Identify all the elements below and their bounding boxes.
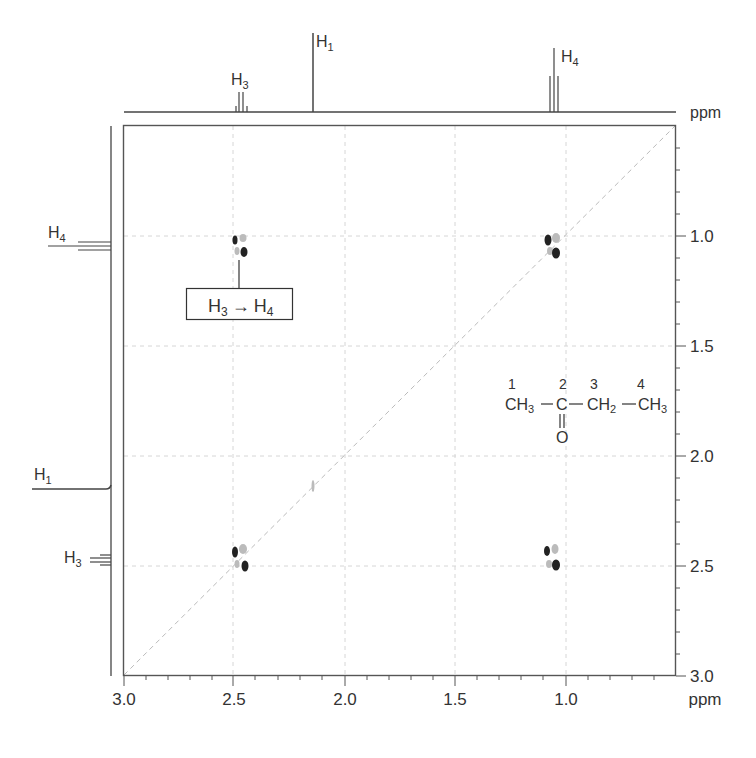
cross-peak-h1-diagonal [312,480,315,492]
cross-peak-h4-diagonal [545,233,561,259]
svg-text:1: 1 [508,376,516,392]
svg-text:2: 2 [559,376,567,392]
right-axis-ticks [676,148,686,676]
svg-text:2.0: 2.0 [333,690,357,709]
cosy-chart: H3→H4 H3 H1 H4 ppm H4 H1 H3 1.0 1.5 2.0 … [0,0,756,758]
molecule-structure: 1 2 3 4 CH3 C CH2 CH3 O [505,376,667,446]
top-label-h3: H3 [231,71,249,91]
top-label-h4: H4 [561,48,579,68]
svg-text:CH2: CH2 [587,396,616,415]
left-projection-spectrum [32,126,111,676]
top-ppm-label: ppm [690,104,721,121]
cross-peak-h4-h3 [544,544,560,571]
arrow-icon: → [232,296,250,316]
svg-text:4: 4 [637,376,645,392]
svg-text:ppm: ppm [688,690,721,709]
svg-text:O: O [556,429,568,446]
svg-text:H3→H4: H3→H4 [208,296,274,319]
svg-text:CH3: CH3 [505,396,534,415]
svg-text:2.5: 2.5 [222,690,246,709]
bottom-axis-labels: 3.0 2.5 2.0 1.5 1.0 ppm [112,690,721,709]
svg-text:2.5: 2.5 [690,557,714,576]
right-axis-labels: 1.0 1.5 2.0 2.5 3.0 [690,227,714,686]
cross-peak-h3-h4 [233,234,248,257]
svg-text:2.0: 2.0 [690,447,714,466]
svg-text:1.0: 1.0 [690,227,714,246]
svg-text:1.5: 1.5 [690,337,714,356]
cross-peak-h3-diagonal [232,544,249,572]
top-projection-spectrum [124,33,676,112]
svg-text:3: 3 [590,376,598,392]
annotation-h3: H [208,296,221,316]
left-label-h4: H4 [48,224,66,244]
bottom-axis-ticks [124,676,654,686]
left-label-h1: H1 [34,466,52,486]
svg-text:C: C [556,396,568,413]
top-label-h1: H1 [316,33,334,53]
left-label-h3: H3 [64,549,82,569]
svg-text:3.0: 3.0 [690,667,714,686]
svg-text:1.0: 1.0 [554,690,578,709]
svg-text:CH3: CH3 [638,396,667,415]
svg-text:3.0: 3.0 [112,690,136,709]
svg-text:1.5: 1.5 [443,690,467,709]
